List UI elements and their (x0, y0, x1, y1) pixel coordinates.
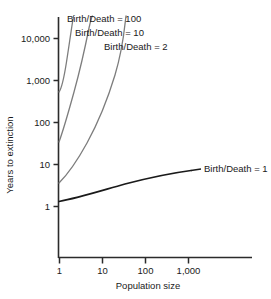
y-axis-title: Years to extinction (4, 116, 15, 193)
extinction-time-log-log-chart: 10,000 1,000 100 10 1 1 10 100 1,000 Pop… (0, 0, 271, 299)
figure-root: 10,000 1,000 100 10 1 1 10 100 1,000 Pop… (0, 0, 271, 299)
x-axis-tick-labels: 1 10 100 1,000 (57, 265, 201, 276)
y-tick-label-1: 1 (45, 201, 50, 212)
curve-birth-death-100 (59, 16, 74, 92)
x-tick-label-1: 1 (57, 265, 62, 276)
series-label-birth-death-2: Birth/Death = 2 (104, 41, 168, 52)
y-tick-label-10: 10 (39, 159, 50, 170)
series-label-birth-death-100: Birth/Death = 100 (67, 13, 141, 24)
y-tick-label-10000: 10,000 (21, 33, 50, 44)
y-axis-tick-labels: 10,000 1,000 100 10 1 (21, 33, 50, 212)
curve-birth-death-1 (59, 171, 191, 202)
figure-caption-strip: FIGURE 4.11 (0, 295, 271, 299)
x-axis-title: Population size (116, 280, 180, 291)
leader-line-birth-death-1 (191, 169, 201, 171)
series-annotations-group: Birth/Death = 100 Birth/Death = 10 Birth… (67, 13, 268, 174)
series-label-birth-death-1: Birth/Death = 1 (204, 163, 268, 174)
series-label-birth-death-10: Birth/Death = 10 (75, 27, 144, 38)
x-axis-ticks (60, 258, 189, 264)
figure-caption: FIGURE 4.11 (22, 295, 78, 296)
x-tick-label-1000: 1,000 (177, 265, 201, 276)
axes-group (59, 17, 253, 258)
x-tick-label-100: 100 (138, 265, 154, 276)
y-tick-label-1000: 1,000 (26, 75, 50, 86)
x-tick-label-10: 10 (97, 265, 108, 276)
y-tick-label-100: 100 (34, 117, 50, 128)
